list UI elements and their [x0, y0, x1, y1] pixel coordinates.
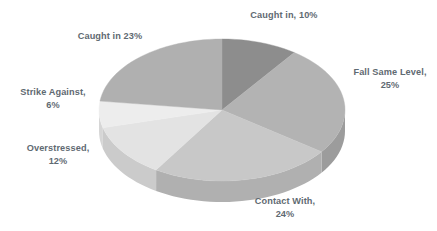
pie-label-strike-against-6: Strike Against, 6% [2, 86, 104, 112]
pie-label-fall-same-level-25: Fall Same Level, 25% [344, 66, 436, 92]
pie-label-caught-in-10: Caught in, 10% [226, 9, 342, 22]
pie-slice-tops [99, 39, 345, 181]
pie-chart-figure: Caught in, 10% Fall Same Level, 25% Cont… [0, 0, 437, 231]
pie-label-contact-with-24: Contact With, 24% [233, 195, 337, 221]
pie-label-overstressed-12: Overstressed, 12% [8, 142, 108, 168]
pie-label-caught-in-23: Caught in 23% [58, 30, 162, 43]
